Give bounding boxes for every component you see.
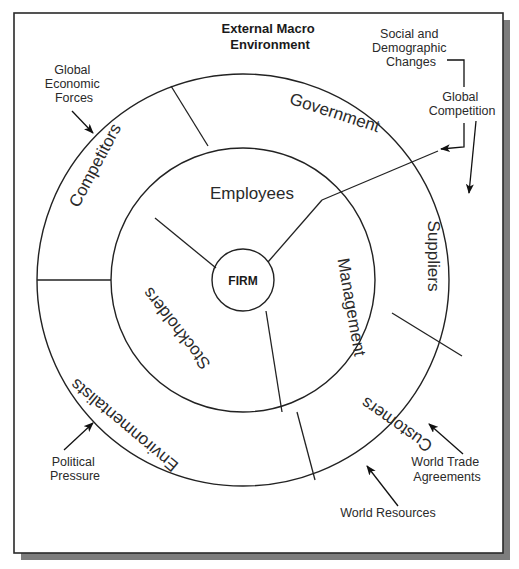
force-world-resources: World Resources — [340, 506, 436, 520]
firm-label: FIRM — [228, 274, 257, 288]
diagram-title: External Macro Environment — [222, 21, 319, 52]
segment-employees: Employees — [210, 184, 294, 203]
force-world-trade: World Trade Agreements — [411, 455, 482, 484]
stakeholder-diagram: External Macro Environment FIRM Employee… — [0, 0, 519, 569]
force-political-pressure: Political Pressure — [50, 455, 100, 483]
segment-suppliers: Suppliers — [424, 221, 443, 292]
